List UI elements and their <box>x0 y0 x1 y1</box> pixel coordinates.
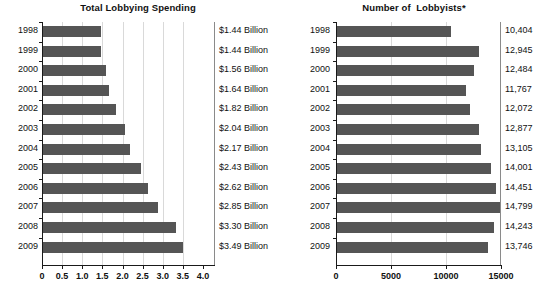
bar <box>43 104 116 115</box>
y-axis-tick <box>333 81 337 82</box>
bar <box>43 65 106 76</box>
bar-row: 2005$2.43 Billion <box>0 159 276 179</box>
y-axis-category-label: 2007 <box>296 201 330 212</box>
bar-row: 200913,746 <box>276 238 552 258</box>
bar-row: 2006$2.62 Billion <box>0 179 276 199</box>
y-axis-tick <box>333 238 337 239</box>
x-axis-tick-label: 0.5 <box>56 271 69 282</box>
bar-value-label: 12,484 <box>505 64 533 75</box>
x-axis-tick <box>163 265 164 269</box>
x-axis-tick <box>501 265 502 269</box>
x-axis-line-left <box>42 265 215 266</box>
x-axis-tick-label: 2.0 <box>116 271 129 282</box>
y-axis-category-label: 2001 <box>296 84 330 95</box>
bar-row: 1999$1.44 Billion <box>0 42 276 62</box>
bar <box>337 124 479 135</box>
y-axis-tick <box>39 159 43 160</box>
y-axis-tick <box>39 22 43 23</box>
bar-value-label: 14,799 <box>505 201 533 212</box>
bar-row: 199810,404 <box>276 22 552 42</box>
bar-value-label: $1.56 Billion <box>219 64 268 75</box>
y-axis-category-label: 1998 <box>4 25 38 36</box>
bar-row: 2000$1.56 Billion <box>0 61 276 81</box>
bar-value-label: $2.62 Billion <box>219 182 268 193</box>
y-axis-category-label: 2000 <box>296 64 330 75</box>
bar-value-label: 14,243 <box>505 221 533 232</box>
bar-rows-left: 1998$1.44 Billion1999$1.44 Billion2000$1… <box>0 22 276 257</box>
chart-number-of-lobbyists: Number of Lobbyists* 199810,404199912,94… <box>276 0 552 293</box>
bar <box>337 65 474 76</box>
bar-row: 2003$2.04 Billion <box>0 120 276 140</box>
bar-value-label: $2.04 Billion <box>219 123 268 134</box>
x-axis-tick <box>203 265 204 269</box>
bar <box>337 26 451 37</box>
y-axis-tick <box>333 22 337 23</box>
y-axis-tick <box>333 140 337 141</box>
bar-value-label: 11,767 <box>505 84 532 95</box>
x-axis-tick-label: 15000 <box>488 271 513 282</box>
bar-value-label: $2.85 Billion <box>219 201 268 212</box>
bar-value-label: $1.44 Billion <box>219 25 268 36</box>
y-axis-category-label: 2005 <box>4 162 38 173</box>
y-axis-category-label: 2006 <box>4 182 38 193</box>
y-axis-category-label: 2009 <box>4 241 38 252</box>
y-axis-tick <box>39 218 43 219</box>
x-axis-tick <box>123 265 124 269</box>
y-axis-tick <box>39 61 43 62</box>
y-axis-tick <box>333 100 337 101</box>
x-axis-tick-label: 1.5 <box>96 271 109 282</box>
y-axis-category-label: 2000 <box>4 64 38 75</box>
x-axis-tick-label: 4.0 <box>197 271 210 282</box>
bar <box>337 85 466 96</box>
bar-row: 200413,105 <box>276 140 552 160</box>
chart-title-left: Total Lobbying Spending <box>0 2 276 13</box>
bar-row: 2007$2.85 Billion <box>0 198 276 218</box>
bar <box>337 104 470 115</box>
bar-row: 200514,001 <box>276 159 552 179</box>
y-axis-tick <box>39 100 43 101</box>
bar-value-label: 12,877 <box>505 123 533 134</box>
x-axis-tick <box>391 265 392 269</box>
y-axis-category-label: 2006 <box>296 182 330 193</box>
bar <box>337 242 488 253</box>
bar-value-label: $1.64 Billion <box>219 84 268 95</box>
x-axis-line-right <box>336 265 501 266</box>
y-axis-tick <box>333 198 337 199</box>
chart-total-lobbying-spending: Total Lobbying Spending 1998$1.44 Billio… <box>0 0 276 293</box>
bar-row: 200012,484 <box>276 61 552 81</box>
bar <box>43 144 130 155</box>
y-axis-tick <box>39 81 43 82</box>
y-axis-category-label: 2004 <box>4 143 38 154</box>
chart-title-right: Number of Lobbyists* <box>276 2 552 13</box>
bar-value-label: 14,451 <box>505 182 533 193</box>
y-axis-category-label: 2002 <box>4 103 38 114</box>
bar-rows-right: 199810,404199912,945200012,484200111,767… <box>276 22 552 257</box>
bar <box>43 85 109 96</box>
bar-value-label: 12,945 <box>505 45 533 56</box>
x-axis-tick <box>446 265 447 269</box>
x-axis-tick-label: 3.5 <box>177 271 190 282</box>
y-axis-category-label: 2009 <box>296 241 330 252</box>
y-axis-category-label: 2003 <box>4 123 38 134</box>
x-axis-tick <box>102 265 103 269</box>
bar <box>337 183 496 194</box>
bar-row: 200714,799 <box>276 198 552 218</box>
y-axis-tick <box>333 61 337 62</box>
bar <box>337 163 491 174</box>
bar-value-label: 12,072 <box>505 103 533 114</box>
bar-row: 2004$2.17 Billion <box>0 140 276 160</box>
bar-row: 200614,451 <box>276 179 552 199</box>
bar <box>43 222 176 233</box>
bar-row: 1998$1.44 Billion <box>0 22 276 42</box>
bar-value-label: $2.17 Billion <box>219 143 268 154</box>
bar <box>43 163 141 174</box>
bar-value-label: $2.43 Billion <box>219 162 268 173</box>
x-axis-tick <box>62 265 63 269</box>
y-axis-category-label: 2003 <box>296 123 330 134</box>
y-axis-tick <box>333 218 337 219</box>
bar <box>43 26 101 37</box>
bar <box>43 46 101 57</box>
y-axis-tick <box>39 140 43 141</box>
y-axis-category-label: 1999 <box>4 45 38 56</box>
y-axis-category-label: 2007 <box>4 201 38 212</box>
